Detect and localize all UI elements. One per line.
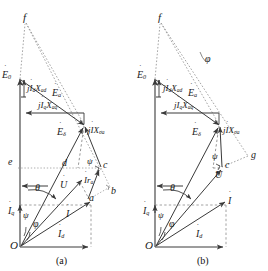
drop-label-jIdXad-a: j˙IdXad bbox=[27, 84, 46, 94]
phasor-label-Id-b: ˙Id bbox=[196, 229, 202, 240]
overdot-icon: ˙ bbox=[67, 204, 70, 212]
angle-label-psi-lower-b: ψ bbox=[158, 211, 164, 220]
phasor-label-I-b: ˙I bbox=[228, 196, 231, 206]
point-label-O-b: O bbox=[145, 240, 153, 251]
phasor-jIXsigma-b bbox=[220, 127, 222, 167]
phasor-label-Iq-a: ˙Iq bbox=[8, 206, 14, 217]
phasor-label-E0-b: ˙E0 bbox=[137, 70, 146, 81]
phasor-label-Edelta-a: ˙Eδ bbox=[57, 127, 66, 138]
angle-label-phi-a: φ bbox=[33, 219, 39, 229]
point-label-a-a: a bbox=[89, 193, 94, 203]
overdot-icon: ˙ bbox=[139, 65, 142, 73]
drop-label-jIdXad-b: j˙IdXad bbox=[163, 84, 182, 94]
phasor-label-U-b: ˙U bbox=[215, 170, 222, 180]
overdot-icon: ˙ bbox=[197, 224, 200, 232]
overdot-icon: ˙ bbox=[9, 201, 12, 209]
overdot-icon: ˙ bbox=[91, 122, 93, 129]
overdot-icon: ˙ bbox=[59, 122, 62, 130]
overdot-icon: ˙ bbox=[85, 172, 87, 179]
phasor-label-Id-a: ˙Id bbox=[58, 229, 64, 240]
phasor-U-b bbox=[156, 170, 221, 246]
phasor-label-Ea-b: ˙Ea bbox=[188, 88, 197, 99]
phasor-label-Iq-b: ˙Iq bbox=[143, 206, 149, 217]
point-label-f-b: f bbox=[158, 12, 161, 23]
panel-caption-a: (a) bbox=[56, 256, 67, 266]
overdot-icon: ˙ bbox=[63, 175, 66, 183]
overdot-icon: ˙ bbox=[226, 122, 228, 129]
angle-label-phi-b: φ bbox=[169, 219, 175, 229]
point-label-c-b: c bbox=[225, 160, 229, 170]
overdot-icon: ˙ bbox=[166, 80, 168, 87]
arc-theta-b bbox=[163, 190, 191, 199]
phasor-I-b bbox=[156, 202, 225, 246]
arc-psi-b bbox=[159, 227, 161, 236]
arc-psi-a bbox=[24, 227, 26, 236]
overdot-icon: ˙ bbox=[4, 65, 7, 73]
drop-label-jIqXaq-b: j˙IqXaq bbox=[174, 101, 193, 111]
drop-label-jIXsigma-b: j˙IXσa bbox=[223, 126, 240, 136]
dotted-E0-to-f bbox=[20, 24, 25, 79]
overdot-icon: ˙ bbox=[59, 224, 62, 232]
point-label-O-a: O bbox=[10, 240, 18, 251]
panel-caption-b: (b) bbox=[197, 256, 209, 266]
phasor-Edelta bbox=[21, 128, 83, 246]
overdot-icon: ˙ bbox=[218, 165, 221, 173]
overdot-icon: ˙ bbox=[144, 201, 147, 209]
point-label-d-a: d bbox=[62, 158, 67, 168]
dotted-f-to-c bbox=[26, 23, 101, 170]
point-label-b-a: b bbox=[111, 186, 116, 196]
point-label-f-a: f bbox=[23, 12, 26, 23]
phasor-label-U-a: ˙U bbox=[60, 180, 67, 190]
angle-label-phi-top-b: φ bbox=[205, 54, 211, 64]
drop-label-Ira-a: ˙Ira bbox=[84, 176, 93, 186]
phasor-Edelta-b bbox=[156, 128, 218, 246]
overdot-icon: ˙ bbox=[177, 97, 179, 104]
phasor-label-Ea-a: ˙Ea bbox=[52, 88, 61, 99]
angle-label-psi-upper-b: ψ bbox=[212, 152, 218, 161]
drop-label-jIqXaq-a: j˙IqXaq bbox=[38, 101, 57, 111]
angle-label-theta-b: θ bbox=[170, 183, 175, 193]
point-label-c-a: c bbox=[103, 160, 107, 170]
point-label-e-a: e bbox=[8, 157, 12, 167]
phasor-label-I-a: ˙I bbox=[66, 209, 69, 219]
angle-label-psi-lower-a: ψ bbox=[23, 211, 29, 220]
dotted-c-to-b bbox=[101, 168, 110, 187]
overdot-icon: ˙ bbox=[194, 122, 197, 130]
overdot-icon: ˙ bbox=[190, 83, 193, 91]
dotted-E0-to-f-b bbox=[155, 24, 160, 79]
overdot-icon: ˙ bbox=[41, 97, 43, 104]
overdot-icon: ˙ bbox=[229, 191, 232, 199]
overdot-icon: ˙ bbox=[30, 80, 32, 87]
phasor-label-E0-a: ˙E0 bbox=[2, 70, 11, 81]
point-label-g-b: g bbox=[251, 150, 256, 160]
figure-canvas: f e d c b a O ˙E0 ˙Ea ˙Eδ ˙U ˙I ˙Id ˙Iq … bbox=[0, 0, 268, 271]
arc-theta-a bbox=[28, 190, 56, 199]
drop-label-jIXsigma-a: j˙IXσa bbox=[88, 126, 105, 136]
overdot-icon: ˙ bbox=[54, 83, 57, 91]
phasor-label-Edelta-b: ˙Eδ bbox=[192, 127, 201, 138]
angle-label-theta-a: θ bbox=[35, 183, 40, 193]
angle-label-psi-upper-a: ψ bbox=[87, 157, 93, 166]
